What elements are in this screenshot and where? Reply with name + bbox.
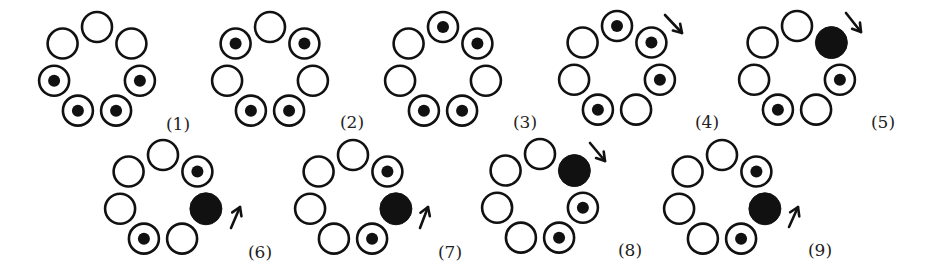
center-dot-icon (592, 104, 604, 116)
center-dot-icon (366, 233, 378, 245)
site-lower-left-dotted (63, 96, 93, 126)
ring-circle-icon (298, 66, 328, 96)
site-lower-left-dotted (583, 95, 613, 125)
site-top-empty (338, 140, 368, 170)
center-dot-icon (645, 37, 657, 49)
site-upper-right-dotted (462, 29, 492, 59)
center-dot-icon (110, 105, 122, 117)
figure-2: (2) (212, 12, 364, 132)
site-right-filled (380, 193, 412, 225)
center-dot-icon (138, 233, 150, 245)
ring-circle-icon (559, 65, 589, 95)
site-right-empty (471, 66, 501, 96)
ring-circle-icon (304, 157, 334, 187)
arrow-up-right-icon (231, 207, 241, 228)
site-upper-left-empty (568, 28, 598, 58)
figure-label: (4) (695, 112, 719, 132)
ring-circle-icon (664, 194, 694, 224)
ring-circle-icon (525, 139, 555, 169)
center-dot-icon (772, 104, 784, 116)
center-dot-icon (654, 74, 666, 86)
site-upper-left-empty (48, 29, 78, 59)
site-top-empty (707, 140, 737, 170)
figure-4: (4) (559, 11, 719, 132)
center-dot-icon (72, 105, 84, 117)
site-lower-left-dotted (236, 96, 266, 126)
site-right-filled (190, 193, 222, 225)
figure-1: (1) (39, 12, 190, 134)
ring-circle-icon (491, 156, 521, 186)
figure-label: (9) (808, 240, 832, 260)
filled-circle-icon (815, 27, 847, 59)
site-upper-right-dotted (636, 28, 666, 58)
figure-label: (5) (871, 112, 895, 132)
center-dot-icon (553, 232, 565, 244)
figure-8: (8) (482, 139, 642, 260)
arrow-down-right-icon (846, 13, 861, 32)
site-lower-left-empty (688, 224, 718, 254)
site-left-empty (664, 194, 694, 224)
arrow-up-right-icon (789, 207, 799, 227)
site-upper-right-dotted (182, 157, 212, 187)
ring-circle-icon (255, 12, 285, 42)
site-upper-left-empty (394, 29, 424, 59)
filled-circle-icon (190, 193, 222, 225)
site-upper-left-empty (673, 157, 703, 187)
figures-group: (1)(2)(3)(4)(5)(6)(7)(8)(9) (39, 11, 895, 262)
site-upper-right-dotted (289, 29, 319, 59)
ring-circle-icon (801, 95, 831, 125)
site-upper-left-empty (748, 28, 778, 58)
site-lower-right-dotted (101, 96, 131, 126)
site-lower-left-empty (319, 224, 349, 254)
filled-circle-icon (558, 155, 590, 187)
filled-circle-icon (749, 193, 781, 225)
site-right-filled (749, 193, 781, 225)
figure-label: (1) (166, 114, 190, 134)
site-lower-right-dotted (274, 96, 304, 126)
site-left-empty (212, 66, 242, 96)
center-dot-icon (298, 38, 310, 50)
ring-circle-icon (295, 194, 325, 224)
site-top-empty (82, 12, 112, 42)
site-upper-right-dotted (741, 157, 771, 187)
site-left-empty (739, 65, 769, 95)
site-upper-right-empty (116, 29, 146, 59)
center-dot-icon (245, 105, 257, 117)
center-dot-icon (48, 75, 60, 87)
figure-label: (3) (513, 112, 537, 132)
ring-circle-icon (506, 223, 536, 253)
figure-3: (3) (385, 12, 537, 132)
site-top-empty (782, 11, 812, 41)
ring-circle-icon (48, 29, 78, 59)
center-dot-icon (735, 233, 747, 245)
center-dot-icon (611, 20, 623, 32)
site-left-empty (105, 194, 135, 224)
center-dot-icon (834, 74, 846, 86)
ring-circle-icon (748, 28, 778, 58)
site-right-dotted (125, 66, 155, 96)
ring-circle-icon (688, 224, 718, 254)
site-right-dotted (568, 193, 598, 223)
site-top-empty (525, 139, 555, 169)
site-left-empty (482, 193, 512, 223)
filled-circle-icon (380, 193, 412, 225)
ring-circle-icon (739, 65, 769, 95)
arrow-up-right-icon (420, 207, 430, 228)
site-upper-left-empty (491, 156, 521, 186)
site-upper-left-dotted (221, 29, 251, 59)
center-dot-icon (437, 21, 449, 33)
ring-circle-icon (116, 29, 146, 59)
center-dot-icon (134, 75, 146, 87)
site-lower-right-dotted (447, 96, 477, 126)
figure-6: (6) (105, 140, 272, 262)
site-left-empty (559, 65, 589, 95)
ring-circle-icon (338, 140, 368, 170)
ring-circle-icon (212, 66, 242, 96)
site-top-dotted (602, 11, 632, 41)
site-top-empty (148, 140, 178, 170)
site-right-dotted (825, 65, 855, 95)
site-lower-left-dotted (129, 224, 159, 254)
ring-circle-icon (621, 95, 651, 125)
figure-5: (5) (739, 11, 895, 132)
site-lower-right-dotted (357, 224, 387, 254)
